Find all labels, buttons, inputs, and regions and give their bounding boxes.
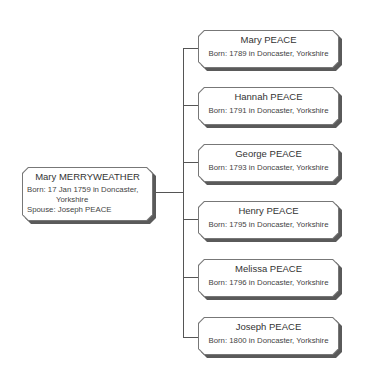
- child-connector-4: [183, 219, 198, 220]
- person-name: Mary PEACE: [198, 34, 339, 45]
- person-name: Melissa PEACE: [198, 263, 339, 274]
- person-box-child[interactable]: Joseph PEACE Born: 1800 in Doncaster, Yo…: [198, 317, 339, 355]
- parent-connector: [155, 192, 184, 193]
- person-born: Born: 1791 in Doncaster, Yorkshire: [198, 106, 339, 115]
- child-connector-6: [183, 337, 198, 338]
- person-born: Born: 1793 in Doncaster, Yorkshire: [198, 163, 339, 172]
- person-born: Born: 1789 in Doncaster, Yorkshire: [198, 49, 339, 58]
- person-born: Born: 1800 in Doncaster, Yorkshire: [198, 336, 339, 345]
- person-box-child[interactable]: George PEACE Born: 1793 in Doncaster, Yo…: [198, 144, 339, 182]
- person-name: George PEACE: [198, 148, 339, 159]
- child-connector-1: [183, 48, 198, 49]
- child-connector-5: [183, 277, 198, 278]
- person-name: Henry PEACE: [198, 205, 339, 216]
- person-spouse: Spouse: Joseph PEACE: [27, 205, 112, 214]
- child-connector-2: [183, 105, 198, 106]
- person-name: Joseph PEACE: [198, 321, 339, 332]
- person-box-child[interactable]: Henry PEACE Born: 1795 in Doncaster, Yor…: [198, 201, 339, 239]
- person-box-child[interactable]: Hannah PEACE Born: 1791 in Doncaster, Yo…: [198, 87, 339, 125]
- person-name: Mary MERRYWEATHER: [22, 171, 153, 182]
- person-box-child[interactable]: Mary PEACE Born: 1789 in Doncaster, York…: [198, 30, 339, 68]
- person-box-parent[interactable]: Mary MERRYWEATHER Born: 17 Jan 1759 in D…: [22, 167, 153, 221]
- person-born: Born: 17 Jan 1759 in Doncaster,: [27, 185, 138, 194]
- sibling-bus: [183, 48, 184, 338]
- person-born: Born: 1795 in Doncaster, Yorkshire: [198, 220, 339, 229]
- person-box-child[interactable]: Melissa PEACE Born: 1796 in Doncaster, Y…: [198, 259, 339, 297]
- person-name: Hannah PEACE: [198, 91, 339, 102]
- person-born-place: Yorkshire: [56, 195, 88, 204]
- person-born: Born: 1796 in Doncaster, Yorkshire: [198, 278, 339, 287]
- child-connector-3: [183, 162, 198, 163]
